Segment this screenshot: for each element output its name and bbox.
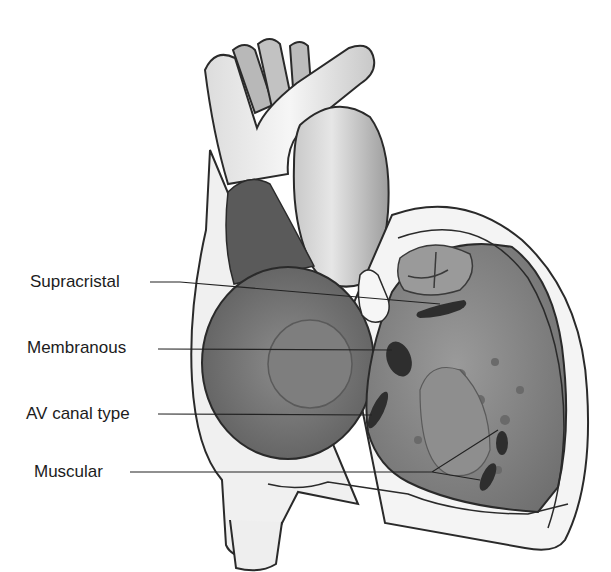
defect-muscular-1 bbox=[496, 431, 508, 455]
label-membranous: Membranous bbox=[27, 338, 126, 358]
label-muscular: Muscular bbox=[34, 462, 103, 482]
pulmonary-valve bbox=[398, 245, 473, 295]
label-av-canal-type: AV canal type bbox=[26, 404, 130, 424]
label-supracristal: Supracristal bbox=[30, 272, 120, 292]
heart-diagram: Supracristal Membranous AV canal type Mu… bbox=[0, 0, 611, 572]
fossa-ovalis bbox=[268, 320, 352, 408]
